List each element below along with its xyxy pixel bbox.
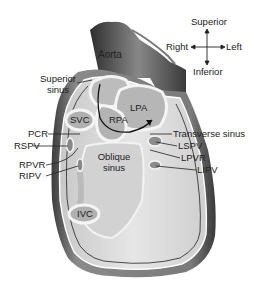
label-transverse-sinus: Transverse sinus (173, 129, 245, 139)
label-rpvr: RPVR (19, 160, 45, 170)
label-oblique-sinus-2: sinus (94, 163, 134, 173)
compass-left: Left (226, 42, 242, 52)
label-lspv: LSPV (178, 141, 202, 151)
label-rpa: RPA (109, 115, 128, 125)
label-lpa: LPA (130, 103, 147, 113)
label-pcr: PCR (28, 129, 48, 139)
label-lpvr: LPVR (181, 153, 206, 163)
compass-right: Right (166, 42, 188, 52)
label-rspv: RSPV (14, 141, 40, 151)
label-ivc: IVC (77, 209, 93, 219)
orientation-compass (191, 29, 225, 65)
label-ripv: RIPV (19, 171, 41, 181)
label-superior-sinus-1: Superior (36, 74, 80, 84)
label-svc: SVC (70, 115, 90, 125)
label-aorta: Aorta (98, 50, 122, 60)
compass-superior: Superior (191, 17, 227, 27)
label-oblique-sinus-1: Oblique (94, 152, 134, 162)
label-superior-sinus-2: sinus (36, 85, 80, 95)
compass-inferior: Inferior (193, 67, 223, 77)
label-lipv: LIPV (197, 165, 218, 175)
